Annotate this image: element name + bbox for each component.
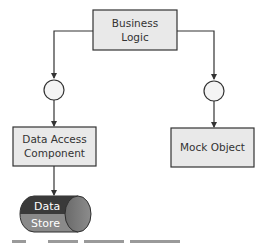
data-access-line1: Data Access xyxy=(22,133,86,145)
data-store-cylinder-icon: Data Store xyxy=(20,196,91,232)
business-logic-line2: Logic xyxy=(121,31,149,43)
diagram-canvas: Business Logic Data Access Component Moc… xyxy=(0,0,266,243)
data-store-line1: Data xyxy=(34,200,60,213)
connector-right xyxy=(177,31,214,127)
business-logic-line1: Business xyxy=(112,17,158,29)
data-access-line2: Component xyxy=(24,147,85,159)
left-interface-icon xyxy=(44,80,64,100)
data-access-component-node: Data Access Component xyxy=(13,127,96,166)
right-interface-icon xyxy=(204,81,224,101)
business-logic-node: Business Logic xyxy=(93,10,177,50)
mock-object-node: Mock Object xyxy=(171,128,254,167)
data-store-line2: Store xyxy=(31,217,60,230)
connector-left xyxy=(54,31,93,126)
mock-object-label: Mock Object xyxy=(180,141,245,153)
